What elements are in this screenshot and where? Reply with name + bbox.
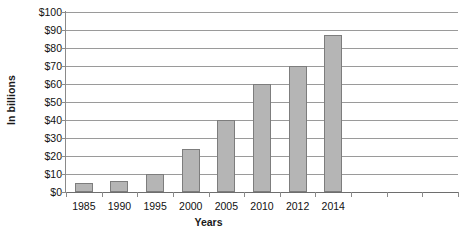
x-axis-tick-label: 2012 xyxy=(286,200,309,212)
gridline xyxy=(66,30,458,31)
bar xyxy=(182,149,200,192)
x-axis-tick-label: 2005 xyxy=(215,200,238,212)
bar xyxy=(75,183,93,192)
x-axis-line xyxy=(66,192,458,193)
x-axis-tick-label: 2010 xyxy=(250,200,273,212)
y-axis-tick-label: $100 xyxy=(39,6,62,18)
y-axis-tick-labels: $0$10$20$30$40$50$60$70$80$90$100 xyxy=(22,0,66,200)
y-axis-tick-label: $20 xyxy=(44,150,62,162)
y-axis-tick-label: $10 xyxy=(44,168,62,180)
bar xyxy=(324,35,342,192)
x-axis-tickmark xyxy=(244,192,245,197)
y-axis-title: In billions xyxy=(0,0,22,200)
x-axis-tickmark xyxy=(173,192,174,197)
y-axis-tick-label: $90 xyxy=(44,24,62,36)
bar-chart: In billions $0$10$20$30$40$50$60$70$80$9… xyxy=(0,0,470,238)
y-axis-tickmark xyxy=(61,12,66,13)
bar xyxy=(146,174,164,192)
x-axis-tickmark xyxy=(209,192,210,197)
x-axis-tickmark xyxy=(102,192,103,197)
x-axis-tickmark xyxy=(351,192,352,197)
y-axis-tick-label: $30 xyxy=(44,132,62,144)
y-axis-tick-label: $70 xyxy=(44,60,62,72)
bar xyxy=(217,120,235,192)
x-axis-tick-label: 2000 xyxy=(179,200,202,212)
x-axis-tick-label: 1995 xyxy=(143,200,166,212)
y-axis-tick-label: $50 xyxy=(44,96,62,108)
y-axis-tickmark xyxy=(61,102,66,103)
x-axis-tickmark xyxy=(137,192,138,197)
x-axis-tickmark xyxy=(315,192,316,197)
x-axis-tickmark xyxy=(387,192,388,197)
x-axis-tickmark xyxy=(422,192,423,197)
bar xyxy=(289,66,307,192)
y-axis-tickmark xyxy=(61,48,66,49)
x-axis-tick-label: 1985 xyxy=(72,200,95,212)
x-axis-tick-label: 2014 xyxy=(322,200,345,212)
y-axis-tick-label: $80 xyxy=(44,42,62,54)
x-axis-tick-label: 1990 xyxy=(108,200,131,212)
plot-area xyxy=(66,12,458,192)
gridline xyxy=(66,12,458,13)
y-axis-tickmark xyxy=(61,138,66,139)
x-axis-tickmark xyxy=(280,192,281,197)
x-axis-title: Years xyxy=(195,216,223,228)
y-axis-tick-label: $60 xyxy=(44,78,62,90)
gridline xyxy=(66,48,458,49)
y-axis-tickmark xyxy=(61,174,66,175)
y-axis-tick-label: $40 xyxy=(44,114,62,126)
y-axis-title-label: In billions xyxy=(5,75,17,125)
y-axis-tickmark xyxy=(61,156,66,157)
bar xyxy=(110,181,128,192)
bar xyxy=(253,84,271,192)
y-axis-tickmark xyxy=(61,66,66,67)
y-axis-tickmark xyxy=(61,30,66,31)
x-axis-tickmark xyxy=(458,192,459,197)
x-axis-tickmark xyxy=(66,192,67,197)
y-axis-tickmark xyxy=(61,120,66,121)
gridline xyxy=(66,66,458,67)
y-axis-tickmark xyxy=(61,84,66,85)
